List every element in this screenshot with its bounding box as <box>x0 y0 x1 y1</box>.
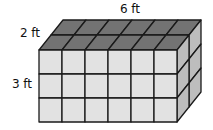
front-face-cube <box>85 98 108 122</box>
front-face-cube <box>62 98 85 122</box>
front-face-cube <box>62 74 85 98</box>
front-face-cube <box>39 50 62 74</box>
front-face-cube <box>131 98 154 122</box>
front-face-cube <box>62 50 85 74</box>
front-face-cube <box>39 98 62 122</box>
depth-label: 2 ft <box>20 26 40 40</box>
front-face-cube <box>108 74 131 98</box>
rectangular-prism-diagram: 6 ft 2 ft 3 ft <box>0 0 213 130</box>
front-face-cube <box>154 74 177 98</box>
front-face-cube <box>108 98 131 122</box>
front-face-cube <box>154 98 177 122</box>
front-face-cube <box>39 74 62 98</box>
front-face-cube <box>85 50 108 74</box>
length-label: 6 ft <box>120 2 140 16</box>
front-face-cube <box>85 74 108 98</box>
front-face-cube <box>154 50 177 74</box>
front-face-cube <box>108 50 131 74</box>
front-face-cube <box>131 74 154 98</box>
height-label: 3 ft <box>12 77 32 91</box>
front-face-cube <box>131 50 154 74</box>
